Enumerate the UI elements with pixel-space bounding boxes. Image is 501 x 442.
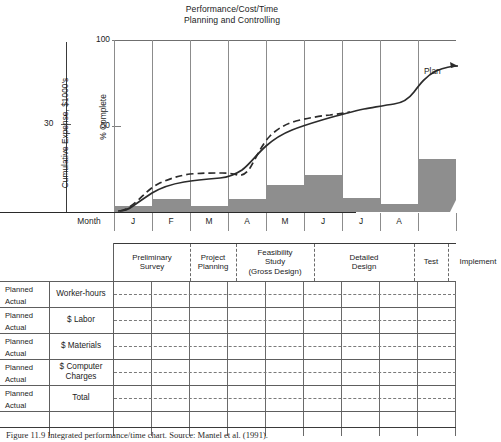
percent-complete-axis-title: % Complete bbox=[98, 72, 108, 162]
percent-axis-tick-label-100: 100 bbox=[88, 34, 110, 44]
actual-label: Actual bbox=[5, 374, 49, 386]
expense-bar bbox=[228, 199, 266, 212]
table-row[interactable]: Planned Actual Total bbox=[0, 385, 456, 411]
expense-bars bbox=[114, 159, 456, 212]
phase-implement[interactable]: Implement bbox=[448, 243, 501, 281]
phase-preliminary-survey[interactable]: Preliminary Survey bbox=[114, 243, 190, 281]
tracking-table: Planned Actual Worker-hours Planned Actu… bbox=[0, 281, 456, 436]
phase-label-line2: Survey bbox=[132, 262, 171, 271]
phase-label-line1: Feasibility bbox=[248, 248, 301, 257]
phase-label-line2: Planning bbox=[198, 262, 229, 271]
metric-label-line1: Worker-hours bbox=[52, 289, 110, 299]
month-label-j1: J bbox=[114, 216, 152, 226]
month-row-caption: Month bbox=[66, 216, 112, 226]
expense-bar bbox=[266, 185, 304, 212]
metric-label-line1: $ Labor bbox=[52, 315, 110, 325]
phase-label-line1: Detailed bbox=[350, 253, 379, 262]
row-dashed-divider bbox=[114, 320, 456, 321]
metric-label-line1: $ Computer bbox=[52, 362, 110, 372]
phase-detailed-design[interactable]: Detailed Design bbox=[314, 243, 414, 281]
metric-label: $ Materials bbox=[52, 341, 110, 351]
phase-label-line1: Project bbox=[198, 253, 229, 262]
row-planned-actual-labels: Planned Actual bbox=[5, 336, 49, 360]
expense-bar bbox=[380, 204, 418, 212]
table-row[interactable]: Planned Actual Worker-hours bbox=[0, 281, 456, 307]
phase-test[interactable]: Test bbox=[414, 243, 448, 281]
chart-title-line1: Performance/Cost/Time bbox=[0, 4, 464, 15]
month-tick bbox=[456, 213, 457, 231]
phase-label-line2: Study bbox=[248, 257, 301, 266]
metric-label: Total bbox=[52, 393, 110, 403]
row-dashed-divider bbox=[114, 346, 456, 347]
row-dashed-divider bbox=[114, 372, 456, 373]
table-bottom-rule bbox=[0, 411, 456, 412]
expense-axis-title: Cumulative Expense, $1000's bbox=[60, 33, 70, 233]
metric-label: $ Labor bbox=[52, 315, 110, 325]
expense-bar bbox=[342, 198, 380, 212]
planned-label: Planned bbox=[5, 362, 49, 374]
month-label-m2: M bbox=[266, 216, 304, 226]
phase-label-line2: Design bbox=[350, 262, 379, 271]
chart-series-svg bbox=[114, 40, 456, 212]
month-label-m1: M bbox=[190, 216, 228, 226]
month-label-j3: J bbox=[342, 216, 380, 226]
chart-plot-area bbox=[114, 40, 456, 212]
figure-caption: Figure 11.9 Integrated performance/time … bbox=[6, 430, 458, 440]
table-row[interactable]: Planned Actual $ Labor bbox=[0, 307, 456, 333]
metric-label: Worker-hours bbox=[52, 289, 110, 299]
month-tick bbox=[418, 213, 419, 231]
actual-label: Actual bbox=[5, 348, 49, 360]
plan-arrowhead bbox=[450, 62, 458, 68]
expense-bar bbox=[152, 199, 190, 212]
row-dashed-divider bbox=[114, 398, 456, 399]
row-planned-actual-labels: Planned Actual bbox=[5, 284, 49, 308]
metric-label-line2: Charges bbox=[52, 372, 110, 382]
table-outer-bottom-rule bbox=[0, 427, 456, 428]
plan-series-label: Plan bbox=[424, 66, 441, 76]
phase-header-band: Preliminary Survey Project Planning Feas… bbox=[114, 243, 456, 281]
table-row[interactable]: Planned Actual $ Materials bbox=[0, 333, 456, 359]
phase-project-planning[interactable]: Project Planning bbox=[190, 243, 236, 281]
metric-label: $ Computer Charges bbox=[52, 362, 110, 381]
chart-baseline bbox=[0, 212, 356, 213]
phase-label-line3: (Gross Design) bbox=[248, 267, 301, 276]
planned-label: Planned bbox=[5, 388, 49, 400]
phase-feasibility-study[interactable]: Feasibility Study (Gross Design) bbox=[236, 243, 314, 281]
expense-bar-final bbox=[418, 159, 456, 212]
planned-label: Planned bbox=[5, 284, 49, 296]
row-planned-actual-labels: Planned Actual bbox=[5, 310, 49, 334]
row-dashed-divider bbox=[114, 294, 456, 295]
expense-bar bbox=[304, 175, 342, 212]
row-planned-actual-labels: Planned Actual bbox=[5, 362, 49, 386]
row-planned-actual-labels: Planned Actual bbox=[5, 388, 49, 412]
metric-label-line1: $ Materials bbox=[52, 341, 110, 351]
phase-label-line1: Test bbox=[424, 257, 438, 266]
actual-label: Actual bbox=[5, 400, 49, 412]
month-label-j2: J bbox=[304, 216, 342, 226]
phase-label-line1: Preliminary bbox=[132, 253, 171, 262]
chart-title: Performance/Cost/Time Planning and Contr… bbox=[0, 4, 464, 25]
month-label-a1: A bbox=[228, 216, 266, 226]
month-label-f: F bbox=[152, 216, 190, 226]
chart-title-line2: Planning and Controlling bbox=[0, 15, 464, 26]
actual-label: Actual bbox=[5, 296, 49, 308]
month-label-a2: A bbox=[380, 216, 418, 226]
table-row[interactable]: Planned Actual $ Computer Charges bbox=[0, 359, 456, 385]
planned-label: Planned bbox=[5, 310, 49, 322]
planned-label: Planned bbox=[5, 336, 49, 348]
phase-label-line1: Implement bbox=[460, 257, 497, 266]
expense-axis-tick-label-30: 30 bbox=[44, 118, 53, 128]
metric-label-line1: Total bbox=[52, 393, 110, 403]
actual-label: Actual bbox=[5, 322, 49, 334]
